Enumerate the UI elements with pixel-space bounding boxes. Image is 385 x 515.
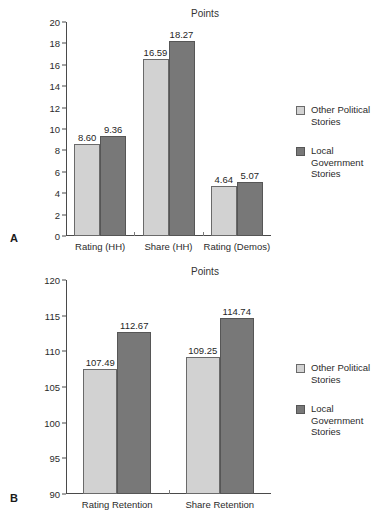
x-axis-label: Rating Retention <box>82 499 153 510</box>
y-tick-label: 6 <box>55 166 66 177</box>
y-tick-label: 4 <box>55 188 66 199</box>
legend-item-local-government: Local Government Stories <box>296 403 385 438</box>
panel-b-title: Points <box>155 266 255 277</box>
x-axis-label: Share (HH) <box>144 241 192 252</box>
y-tick-label: 0 <box>55 231 66 242</box>
bar-other-political: 107.49 <box>83 369 117 494</box>
bar-value-label: 114.74 <box>223 306 251 317</box>
y-tick-label: 12 <box>49 102 66 113</box>
legend-swatch-light-icon <box>296 106 305 115</box>
bar-value-label: 8.60 <box>78 132 97 143</box>
y-tick-label: 95 <box>49 453 66 464</box>
legend-item-other-political: Other Political Stories <box>296 362 385 385</box>
y-tick-label: 90 <box>49 489 66 500</box>
legend-label-other-political: Other Political Stories <box>311 362 385 385</box>
y-tick-label: 18 <box>49 38 66 49</box>
y-tick-label: 2 <box>55 209 66 220</box>
panel-a-plot-area: 02468101214161820Rating (HH)8.609.36Shar… <box>66 22 271 236</box>
legend-label-local-government: Local Government Stories <box>311 145 385 180</box>
bar-value-label: 4.64 <box>215 174 234 185</box>
panel-a-legend: Other Political Stories Local Government… <box>296 104 385 198</box>
chart-panel-b: Points B 9095100105110115120Rating Reten… <box>0 258 385 515</box>
y-tick-label: 20 <box>49 17 66 28</box>
legend-swatch-dark-icon <box>296 147 305 156</box>
bar-value-label: 112.67 <box>120 320 148 331</box>
bar-value-label: 9.36 <box>104 124 123 135</box>
legend-swatch-dark-icon <box>296 405 305 414</box>
bar-value-label: 18.27 <box>170 29 194 40</box>
panel-b-letter: B <box>10 492 18 504</box>
bar-other-political: 109.25 <box>186 357 220 494</box>
chart-panel-a: Points A 02468101214161820Rating (HH)8.6… <box>0 0 385 258</box>
bar-other-political: 16.59 <box>143 59 169 237</box>
legend-item-local-government: Local Government Stories <box>296 145 385 180</box>
panel-b-plot-area: 9095100105110115120Rating Retention107.4… <box>66 280 271 494</box>
bar-value-label: 16.59 <box>144 47 168 58</box>
legend-label-local-government: Local Government Stories <box>311 403 385 438</box>
bar-local-government: 114.74 <box>220 318 254 494</box>
y-tick-label: 115 <box>45 310 66 321</box>
y-tick-label: 120 <box>44 275 66 286</box>
panel-a-y-axis <box>66 22 67 236</box>
bar-local-government: 112.67 <box>117 332 151 494</box>
x-axis-label: Rating (Demos) <box>204 241 271 252</box>
bar-value-label: 109.25 <box>188 345 217 356</box>
legend-label-other-political: Other Political Stories <box>311 104 385 127</box>
x-tick-mark <box>169 490 170 494</box>
x-tick-mark <box>134 232 135 236</box>
bar-local-government: 5.07 <box>237 182 263 236</box>
bar-value-label: 107.49 <box>86 357 115 368</box>
y-tick-label: 8 <box>55 145 66 156</box>
bar-other-political: 8.60 <box>74 144 100 236</box>
panel-b-legend: Other Political Stories Local Government… <box>296 362 385 456</box>
legend-item-other-political: Other Political Stories <box>296 104 385 127</box>
legend-swatch-light-icon <box>296 364 305 373</box>
panel-a-title: Points <box>155 8 255 19</box>
x-axis-label: Share Retention <box>185 499 254 510</box>
y-tick-label: 14 <box>49 81 66 92</box>
y-tick-label: 110 <box>45 346 66 357</box>
bar-other-political: 4.64 <box>211 186 237 236</box>
y-tick-label: 10 <box>49 124 66 135</box>
panel-b-y-axis <box>66 280 67 494</box>
bar-local-government: 9.36 <box>100 136 126 236</box>
y-tick-label: 16 <box>49 59 66 70</box>
bar-value-label: 5.07 <box>241 170 260 181</box>
y-tick-label: 100 <box>44 417 66 428</box>
panel-a-letter: A <box>10 232 18 244</box>
y-tick-label: 105 <box>44 382 66 393</box>
bar-local-government: 18.27 <box>169 41 195 236</box>
x-tick-mark <box>203 232 204 236</box>
x-axis-label: Rating (HH) <box>75 241 125 252</box>
